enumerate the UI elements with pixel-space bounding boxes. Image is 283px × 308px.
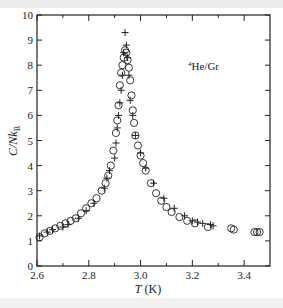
plus-marker bbox=[124, 54, 131, 61]
specific-heat-chart: 2.62.83.03.23.4012345678910 4He/Gr T (K)… bbox=[0, 0, 283, 308]
y-tick-label: 3 bbox=[28, 185, 34, 197]
y-axis-label: C/NkB bbox=[6, 126, 22, 156]
circle-marker bbox=[128, 92, 135, 99]
y-tick-label: 8 bbox=[28, 59, 34, 71]
y-tick-label: 7 bbox=[28, 84, 34, 96]
x-axis-label: T (K) bbox=[135, 282, 161, 296]
y-tick-label: 9 bbox=[28, 34, 34, 46]
y-tick-label: 5 bbox=[28, 135, 34, 147]
plus-marker bbox=[112, 140, 119, 147]
plus-marker bbox=[123, 42, 130, 49]
circle-marker bbox=[102, 180, 109, 187]
data-points bbox=[36, 29, 263, 241]
plus-marker bbox=[199, 220, 206, 227]
x-tick-label: 3.2 bbox=[185, 269, 199, 281]
plus-marker bbox=[115, 112, 122, 119]
axis-ticks: 2.62.83.03.23.4012345678910 bbox=[22, 9, 270, 281]
x-tick-label: 3.0 bbox=[134, 269, 148, 281]
circle-marker bbox=[152, 190, 159, 197]
circle-marker bbox=[130, 119, 137, 126]
plus-marker bbox=[171, 205, 178, 212]
y-tick-label: 4 bbox=[28, 160, 34, 172]
circle-marker bbox=[125, 64, 132, 71]
circle-marker bbox=[114, 117, 121, 124]
circle-marker bbox=[134, 142, 141, 149]
plus-marker bbox=[122, 29, 129, 36]
x-tick-label: 2.8 bbox=[82, 269, 96, 281]
plus-marker bbox=[181, 212, 188, 219]
plus-marker bbox=[90, 200, 97, 207]
plus-marker bbox=[111, 155, 118, 162]
plus-marker bbox=[118, 87, 125, 94]
y-tick-label: 0 bbox=[28, 260, 34, 272]
circle-marker bbox=[230, 226, 237, 233]
circle-marker bbox=[110, 147, 117, 154]
y-tick-label: 10 bbox=[22, 9, 34, 21]
plus-marker bbox=[83, 207, 90, 214]
x-tick-label: 3.4 bbox=[237, 269, 251, 281]
circle-marker bbox=[116, 82, 123, 89]
sample-annotation: 4He/Gr bbox=[188, 60, 219, 72]
plus-marker bbox=[127, 97, 134, 104]
plus-marker bbox=[137, 150, 144, 157]
circle-marker bbox=[112, 129, 119, 136]
y-tick-label: 2 bbox=[28, 210, 34, 222]
plus-marker bbox=[125, 72, 132, 79]
circle-marker bbox=[127, 77, 134, 84]
plus-marker bbox=[142, 165, 149, 172]
plus-marker bbox=[101, 185, 108, 192]
plus-marker bbox=[114, 124, 121, 131]
plus-marker bbox=[106, 167, 113, 174]
y-tick-label: 6 bbox=[28, 109, 34, 121]
plus-marker bbox=[150, 180, 157, 187]
circle-marker bbox=[107, 162, 114, 169]
y-tick-label: 1 bbox=[28, 235, 34, 247]
plus-marker bbox=[160, 195, 167, 202]
circle-marker bbox=[176, 213, 183, 220]
plus-marker bbox=[75, 215, 82, 222]
